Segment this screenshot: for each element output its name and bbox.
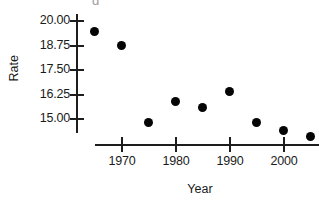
x-tick-1980: [175, 137, 177, 152]
y-tick-label-20.00: 20.00: [10, 14, 70, 27]
y-axis-title: Rate: [8, 42, 21, 94]
data-point: [306, 132, 315, 141]
x-axis-line: [95, 144, 319, 146]
x-tick-1970: [121, 137, 123, 152]
y-tick-16.25: [70, 94, 84, 96]
x-tick-label-1970: 1970: [97, 155, 147, 168]
data-point: [225, 87, 234, 96]
data-point: [252, 118, 261, 127]
data-point: [144, 118, 153, 127]
x-tick-label-1980: 1980: [151, 155, 201, 168]
x-tick-1990: [229, 137, 231, 152]
y-tick-20.00: [70, 20, 84, 22]
y-tick-15.00: [70, 118, 84, 120]
data-point: [198, 103, 207, 112]
y-axis-line: [76, 14, 78, 133]
x-tick-2000: [283, 137, 285, 152]
y-tick-label-15.00: 15.00: [10, 112, 70, 125]
data-point: [279, 126, 288, 135]
cropped-title-fragment: g: [92, 0, 114, 5]
x-tick-label-2000: 2000: [259, 155, 309, 168]
data-point: [171, 97, 180, 106]
data-point: [90, 27, 99, 36]
data-point: [117, 41, 126, 50]
y-tick-18.75: [70, 45, 84, 47]
scatter-chart: g 20.00 18.75 17.50 16.25 15.00 1970 198…: [0, 0, 319, 205]
y-tick-17.50: [70, 69, 84, 71]
x-axis-title: Year: [175, 183, 225, 196]
x-tick-label-1990: 1990: [205, 155, 255, 168]
